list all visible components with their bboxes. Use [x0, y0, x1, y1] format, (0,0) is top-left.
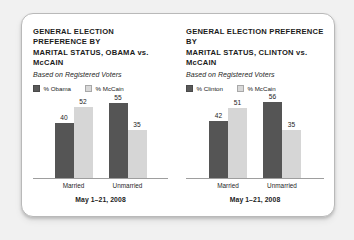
bar-value-married-mccain: 51: [234, 99, 241, 107]
chart-footer-date-obama: May 1–21, 2008: [33, 196, 168, 210]
bar-wrap-married-clinton: 42: [209, 112, 228, 179]
screenshot-stage: GENERAL ELECTION PREFERENCE BY MARITAL S…: [0, 0, 354, 240]
bar-wrap-unmarried-mccain: 35: [128, 121, 147, 179]
chart-axis-line-clinton: [186, 178, 324, 179]
chart-title-clinton: GENERAL ELECTION PREFERENCE BY MARITAL S…: [186, 27, 324, 69]
legend-swatch-icon-obama: [33, 85, 40, 92]
chart-footer-date-clinton: May 1–21, 2008: [186, 196, 324, 210]
chart-legend-obama: % Obama % McCain: [33, 85, 168, 92]
bar-unmarried-mccain: [282, 130, 301, 178]
chart-category-labels-clinton: Married Unmarried: [186, 182, 324, 189]
chart-title-obama: GENERAL ELECTION PREFERENCE BY MARITAL S…: [33, 27, 168, 69]
chart-plot-obama: 40 52 55 35: [33, 96, 168, 178]
legend-item-clinton: % Clinton: [186, 85, 223, 92]
category-label-unmarried-clinton: Unmarried: [263, 182, 301, 189]
bar-group-unmarried-obama: 55 35: [109, 94, 147, 179]
chart-category-labels-obama: Married Unmarried: [33, 182, 168, 189]
bar-group-married-obama: 40 52: [55, 98, 93, 179]
bar-unmarried-clinton: [263, 102, 282, 178]
chart-title-line2: MARITAL STATUS, OBAMA vs. McCAIN: [33, 48, 168, 69]
bar-groups-obama: 40 52 55 35: [33, 96, 168, 178]
chart-subtitle-obama: Based on Registered Voters: [33, 71, 168, 78]
bar-group-unmarried-clinton: 56 35: [263, 93, 301, 179]
bar-wrap-unmarried-clinton: 56: [263, 93, 282, 179]
legend-label-clinton: % Clinton: [197, 85, 223, 92]
chart-title-line1: GENERAL ELECTION PREFERENCE BY: [33, 27, 168, 48]
legend-swatch-icon-clinton: [186, 85, 193, 92]
chart-panel-obama: GENERAL ELECTION PREFERENCE BY MARITAL S…: [22, 14, 178, 216]
bar-value-married-obama: 40: [60, 114, 67, 122]
chart-panel-clinton: GENERAL ELECTION PREFERENCE BY MARITAL S…: [178, 14, 334, 216]
bar-wrap-married-mccain: 51: [228, 99, 247, 179]
bar-unmarried-obama: [109, 103, 128, 178]
legend-item-obama: % Obama: [33, 85, 71, 92]
legend-swatch-icon-mccain: [85, 85, 92, 92]
bar-value-married-mccain: 52: [79, 98, 86, 106]
bar-wrap-married-mccain: 52: [74, 98, 93, 179]
legend-swatch-icon-mccain: [237, 85, 244, 92]
bar-value-married-clinton: 42: [215, 112, 222, 120]
bar-married-clinton: [209, 121, 228, 178]
category-label-married-obama: Married: [55, 182, 93, 189]
bar-groups-clinton: 42 51 56 35: [186, 96, 324, 178]
chart-card: GENERAL ELECTION PREFERENCE BY MARITAL S…: [21, 13, 335, 217]
legend-label-mccain: % McCain: [96, 85, 124, 92]
bar-value-unmarried-obama: 55: [114, 94, 121, 102]
bar-wrap-unmarried-obama: 55: [109, 94, 128, 179]
chart-plot-clinton: 42 51 56 35: [186, 96, 324, 178]
bar-unmarried-mccain: [128, 130, 147, 178]
legend-item-mccain: % McCain: [85, 85, 124, 92]
chart-subtitle-clinton: Based on Registered Voters: [186, 71, 324, 78]
bar-married-obama: [55, 123, 74, 178]
legend-label-mccain: % McCain: [247, 85, 275, 92]
bar-married-mccain: [74, 107, 93, 178]
chart-axis-line-obama: [33, 178, 168, 179]
category-label-unmarried-obama: Unmarried: [109, 182, 147, 189]
bar-group-married-clinton: 42 51: [209, 99, 247, 179]
legend-label-obama: % Obama: [44, 85, 72, 92]
bar-value-unmarried-mccain: 35: [133, 121, 140, 129]
bar-wrap-unmarried-mccain: 35: [282, 121, 301, 179]
bar-married-mccain: [228, 108, 247, 178]
category-label-married-clinton: Married: [209, 182, 247, 189]
bar-value-unmarried-clinton: 56: [269, 93, 276, 101]
chart-legend-clinton: % Clinton % McCain: [186, 85, 324, 92]
legend-item-mccain: % McCain: [237, 85, 276, 92]
chart-title-line2: MARITAL STATUS, CLINTON vs. McCAIN: [186, 48, 324, 69]
bar-value-unmarried-mccain: 35: [288, 121, 295, 129]
chart-title-line1: GENERAL ELECTION PREFERENCE BY: [186, 27, 324, 48]
bar-wrap-married-obama: 40: [55, 114, 74, 179]
